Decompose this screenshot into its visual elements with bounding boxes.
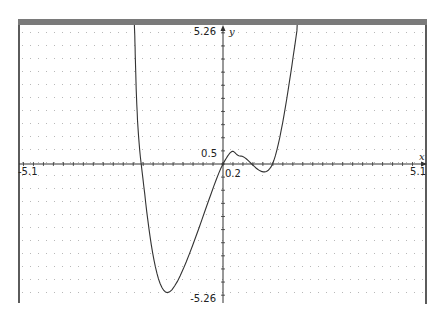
- y-min-label: -5.26: [190, 293, 216, 304]
- x-min-label: -5.1: [18, 166, 38, 177]
- top-bar: [18, 19, 427, 25]
- graph-plot[interactable]: 5.26 y 0.5 0.2 -5.1 5.1 x -5.26: [0, 0, 446, 320]
- x-scale-label: 0.2: [225, 168, 241, 179]
- y-max-label: 5.26: [194, 26, 216, 37]
- y-scale-label: 0.5: [201, 148, 217, 159]
- y-axis-arrow-icon: [221, 25, 226, 31]
- y-axis-label: y: [228, 26, 235, 37]
- x-max-label: 5.1: [410, 166, 426, 177]
- x-axis-label: x: [419, 151, 425, 162]
